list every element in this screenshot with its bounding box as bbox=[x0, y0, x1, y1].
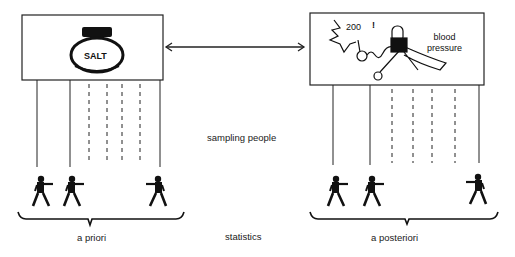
person-icon bbox=[328, 176, 348, 206]
bp-reading: 200 bbox=[346, 22, 361, 32]
salt-label: SALT bbox=[84, 51, 107, 61]
exclaim-mark: ! bbox=[372, 20, 375, 30]
blood-pressure-label: blood pressure bbox=[427, 32, 462, 54]
person-icon bbox=[64, 176, 84, 206]
statistics-label: statistics bbox=[225, 231, 261, 242]
double-arrow-connector bbox=[166, 43, 304, 51]
left-brace bbox=[18, 212, 184, 225]
a-posteriori-label: a posteriori bbox=[371, 232, 418, 243]
sampling-people-label: sampling people bbox=[207, 132, 276, 143]
person-icon bbox=[146, 176, 166, 206]
person-icon bbox=[364, 176, 384, 206]
a-priori-label: a priori bbox=[77, 232, 106, 243]
person-icon bbox=[33, 176, 53, 206]
diagram: SALT 200 ! blood pressure sampling peopl… bbox=[0, 0, 515, 257]
salt-jar-icon bbox=[71, 27, 123, 72]
person-icon bbox=[466, 174, 486, 204]
right-brace bbox=[310, 212, 498, 224]
